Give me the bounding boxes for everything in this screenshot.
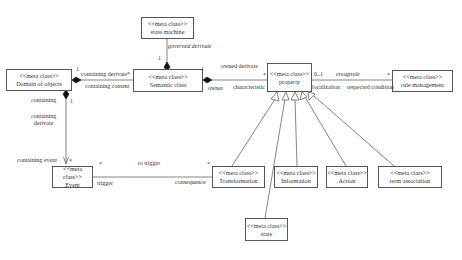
class-name: term association	[390, 177, 430, 185]
class-domain-of-objects[interactable]: <<meta class>> Domain of objects	[6, 69, 72, 91]
mult-rule-star: *	[387, 72, 390, 79]
label-containing-derivate: containing derivate	[81, 71, 127, 78]
class-name: property	[279, 78, 300, 86]
class-name: Action	[339, 177, 356, 185]
class-term-association[interactable]: <<meta class>> term association	[378, 166, 442, 188]
stereotype-label: <<meta class>>	[219, 169, 259, 177]
label-containing-derivate-vertical: containing derivate	[31, 113, 56, 127]
mult-event-star: *	[69, 158, 72, 165]
mult-semantic-1: 1	[201, 66, 204, 73]
class-event[interactable]: <<meta class>> Event	[52, 166, 93, 188]
stereotype-label: <<meta class>>	[403, 73, 443, 81]
stereotype-label: <<meta class>>	[390, 169, 430, 177]
label-containing-event: containing event	[17, 157, 57, 164]
class-name: rule management	[401, 81, 444, 89]
mult-transformation-star: *	[207, 161, 210, 168]
label-owner: owner	[208, 85, 223, 92]
stereotype-label: <<meta class>>	[276, 169, 316, 177]
uml-diagram: <<meta class>> state machine <<meta clas…	[0, 0, 462, 260]
class-name: Semantic class	[150, 81, 187, 89]
class-action[interactable]: <<meta class>> Action	[326, 166, 368, 188]
class-information[interactable]: <<meta class>> Information	[274, 166, 318, 188]
stereotype-label: <<meta class>>	[19, 72, 59, 80]
label-respected-condition: respected condition	[347, 84, 394, 91]
mult-property-star: *	[263, 72, 266, 79]
class-name: state	[261, 230, 272, 238]
class-name: Information	[281, 177, 311, 185]
label-encapsule: encapsule	[336, 71, 360, 78]
class-semantic-class[interactable]: <<meta class>> Semantic class	[133, 69, 203, 92]
mult-property-0-1: 0..1	[314, 71, 323, 78]
class-name: state machine	[151, 28, 185, 36]
label-to-trigger: to trigger	[138, 160, 160, 167]
class-name: Event	[65, 181, 79, 189]
mult-domain-1: 1	[76, 66, 79, 73]
stereotype-label: <<meta class>>	[327, 169, 367, 177]
label-consequence: consequence	[175, 179, 206, 186]
class-rule-management[interactable]: <<meta class>> rule management	[392, 70, 453, 92]
label-containing-content: containing content	[85, 83, 130, 90]
label-characteristic: characteristic	[233, 84, 265, 91]
class-transformation[interactable]: <<meta class>> Transformation	[212, 166, 265, 188]
label-localization: localization	[312, 84, 340, 91]
label-containing: containing	[31, 97, 56, 104]
class-state-machine[interactable]: <<meta class>> state machine	[141, 17, 194, 39]
mult-containing-derivate: *	[127, 71, 130, 78]
stereotype-label: <<meta class>>	[148, 73, 188, 81]
stereotype-label: <<meta class>>	[270, 70, 310, 78]
mult-event-right-star: *	[99, 161, 102, 168]
connector-lines	[0, 0, 462, 260]
label-trigger: trigger	[97, 180, 113, 187]
mult-state-machine: 1	[158, 55, 161, 62]
label-governed-derivate: governed derivate	[168, 43, 211, 50]
stereotype-label: <<meta class>>	[247, 222, 287, 230]
class-name: Domain of objects	[16, 80, 62, 88]
class-name: Transformation	[219, 177, 257, 185]
stereotype-label: <<meta class>>	[53, 165, 92, 181]
stereotype-label: <<meta class>>	[148, 20, 188, 28]
class-state[interactable]: <<meta class>> state	[245, 218, 288, 241]
label-owned-derivate: owned derivate	[221, 63, 258, 70]
class-property[interactable]: <<meta class>> property	[267, 63, 312, 92]
mult-domain-down: 1	[70, 98, 73, 105]
